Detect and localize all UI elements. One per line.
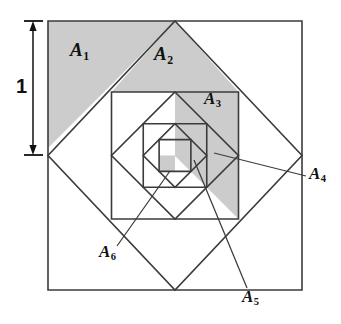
label-a2-letter: A xyxy=(154,43,167,64)
figure-canvas: A1 A2 A3 A4 A5 A6 1 xyxy=(0,0,341,324)
label-a2: A2 xyxy=(154,44,173,66)
region-a6-shape xyxy=(159,156,175,172)
label-a6-letter: A xyxy=(99,242,110,261)
dimension-arrowhead-down xyxy=(29,145,36,155)
dimension-arrowhead-up xyxy=(29,21,36,31)
label-a1: A1 xyxy=(70,40,89,62)
label-a3: A3 xyxy=(204,90,221,110)
label-a5-letter: A xyxy=(242,287,253,306)
label-a3-subscript: 3 xyxy=(215,98,221,109)
label-a5: A5 xyxy=(242,288,259,308)
label-a4: A4 xyxy=(309,165,326,185)
label-a3-letter: A xyxy=(204,89,215,108)
label-a2-subscript: 2 xyxy=(167,54,173,67)
label-a6-subscript: 6 xyxy=(110,251,116,262)
label-a6: A6 xyxy=(99,243,116,263)
region-a5-shape xyxy=(175,140,191,172)
label-a5-subscript: 5 xyxy=(253,296,259,307)
label-a1-letter: A xyxy=(70,39,83,60)
dimension-label: 1 xyxy=(16,76,27,96)
label-a1-subscript: 1 xyxy=(83,50,89,63)
label-a4-letter: A xyxy=(309,164,320,183)
label-a4-subscript: 4 xyxy=(320,173,326,184)
